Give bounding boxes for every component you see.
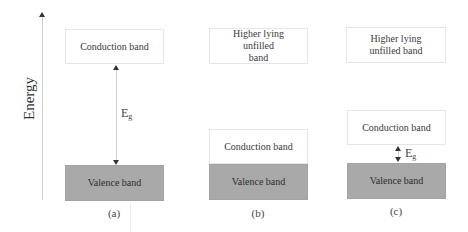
energy-axis-label: Energy [21,77,38,120]
panel-c-valence-band: Valence band [347,163,446,199]
energy-axis-line [42,16,43,200]
panel-c-gap-arrow-down-icon [395,157,401,162]
eg-sub: g [128,112,132,121]
panel-a-band-gap-label: Eg [121,106,132,121]
panel-b-caption: (b) [238,207,278,219]
panel-a-gap-line [116,70,117,160]
eg-sub: g [412,152,416,161]
energy-axis-arrow-icon [39,12,45,17]
panel-a-caption: (a) [94,207,134,219]
panel-c-caption: (c) [376,205,416,217]
panel-b-higher-unfilled-band: Higher lying unfilled band [209,28,308,64]
panel-b-conduction-band: Conduction band [209,129,308,164]
panel-b-valence-band: Valence band [209,164,308,200]
panel-a-valence-band: Valence band [65,165,164,201]
panel-c-band-gap-label: Eg [405,146,416,161]
panel-c-higher-unfilled-band: Higher lying unfilled band [346,27,446,63]
panel-a-conduction-band: Conduction band [65,29,164,64]
panel-c-conduction-band: Conduction band [347,110,446,145]
